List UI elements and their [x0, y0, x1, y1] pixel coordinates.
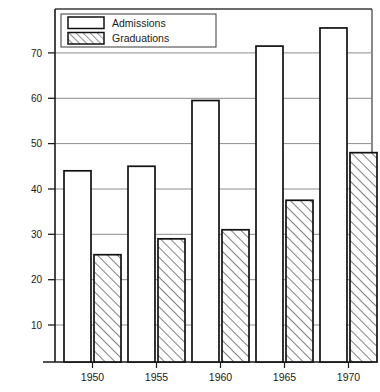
y-tick-label: 40	[31, 184, 43, 195]
bar-admissions-1965	[256, 46, 283, 362]
bar-graduations-1955	[158, 239, 185, 362]
bar-admissions-1970	[320, 28, 347, 362]
y-tick-label: 30	[31, 229, 43, 240]
bar-graduations-1950	[94, 255, 121, 362]
bar-graduations-1960	[222, 230, 249, 362]
bar-admissions-1955	[128, 166, 155, 362]
y-tick-label: 60	[31, 93, 43, 104]
y-tick-label: 20	[31, 274, 43, 285]
y-tick-label: 10	[31, 320, 43, 331]
y-tick-label: 50	[31, 138, 43, 149]
y-tick-label: 70	[31, 48, 43, 59]
chart-canvas: 70 60 50 40 30 20 10 1950195519601965197…	[0, 0, 380, 392]
x-tick-label-1955: 1955	[145, 371, 169, 383]
empty-swatch-icon	[68, 17, 104, 29]
hatched-swatch-icon	[68, 33, 104, 45]
bar-admissions-1960	[192, 101, 219, 362]
x-tick-label-1965: 1965	[273, 371, 297, 383]
legend-label-admissions: Admissions	[112, 17, 166, 29]
bar-admissions-1950	[64, 171, 91, 362]
legend-label-graduations: Graduations	[112, 32, 169, 44]
x-tick-label-1950: 1950	[81, 371, 105, 383]
x-tick-label-1960: 1960	[209, 371, 233, 383]
bar-graduations-1965	[286, 200, 313, 362]
bar-chart: 70 60 50 40 30 20 10 1950195519601965197…	[0, 0, 380, 392]
bar-graduations-1970	[350, 153, 377, 362]
x-tick-label-1970: 1970	[337, 371, 361, 383]
